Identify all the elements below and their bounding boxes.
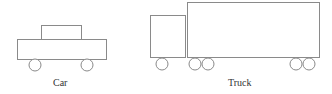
truck-label: Truck — [228, 77, 252, 88]
car-label: Car — [53, 77, 67, 88]
car-body — [18, 40, 107, 60]
truck-wheel — [189, 58, 201, 70]
truck-drawing — [151, 3, 320, 71]
car-front-wheel — [29, 59, 41, 71]
truck-wheel — [290, 58, 302, 70]
truck-wheel — [202, 58, 214, 70]
vehicle-diagram — [0, 0, 332, 94]
car-cabin — [42, 26, 82, 40]
car-rear-wheel — [81, 59, 93, 71]
truck-wheel — [303, 58, 315, 70]
truck-wheel — [156, 58, 168, 70]
car-drawing — [18, 26, 107, 72]
truck-cab — [151, 16, 186, 58]
truck-trailer — [188, 3, 320, 58]
